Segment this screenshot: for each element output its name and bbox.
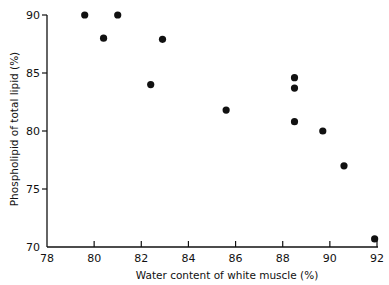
y-tick-label: 80 (26, 125, 40, 138)
x-tick-label: 86 (229, 252, 243, 265)
x-tick-label: 88 (276, 252, 290, 265)
y-axis-title: Phospholipid of total lipid (%) (8, 52, 20, 206)
x-ticks: 7880828486889092 (40, 241, 384, 265)
data-points (81, 11, 378, 242)
data-point (319, 127, 326, 134)
y-tick-label: 70 (26, 241, 40, 254)
data-point (223, 107, 230, 114)
data-point (291, 84, 298, 91)
data-point (340, 162, 347, 169)
data-point (291, 118, 298, 125)
data-point (114, 11, 121, 18)
data-point (81, 11, 88, 18)
x-tick-label: 92 (370, 252, 384, 265)
data-point (371, 235, 378, 242)
x-tick-label: 84 (181, 252, 195, 265)
data-point (100, 35, 107, 42)
y-tick-label: 90 (26, 9, 40, 22)
x-tick-label: 78 (40, 252, 54, 265)
x-tick-label: 80 (87, 252, 101, 265)
x-axis-title: Water content of white muscle (%) (136, 269, 318, 281)
y-ticks: 7075808590 (26, 9, 47, 254)
x-tick-label: 90 (323, 252, 337, 265)
data-point (147, 81, 154, 88)
scatter-chart: 7880828486889092 7075808590 Water conten… (0, 0, 389, 285)
data-point (159, 36, 166, 43)
axes (47, 15, 378, 247)
x-tick-label: 82 (134, 252, 148, 265)
y-tick-label: 75 (26, 183, 40, 196)
y-tick-label: 85 (26, 67, 40, 80)
data-point (291, 74, 298, 81)
